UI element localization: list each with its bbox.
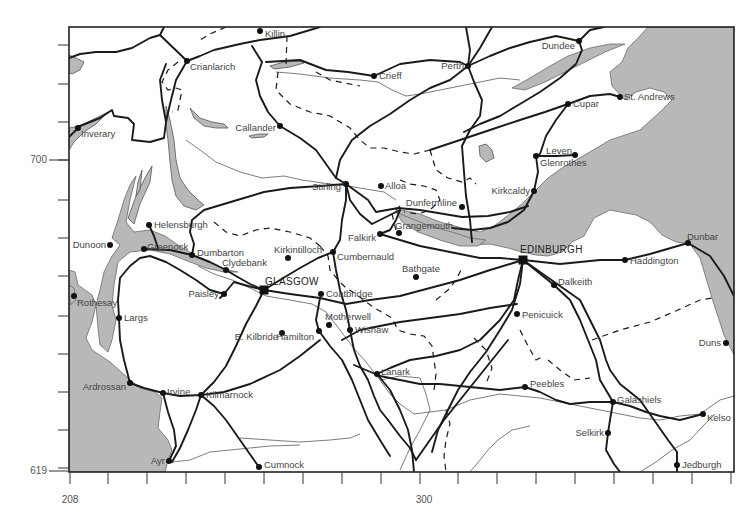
town-callander: Callander — [235, 122, 283, 133]
town-label: Crianlarich — [190, 61, 235, 72]
town-crianlarich: Crianlarich — [184, 58, 235, 72]
town-marker-icon — [459, 204, 465, 210]
town-haddington: Haddington — [622, 255, 679, 266]
town-falkirk: Falkirk — [348, 231, 383, 243]
town-marker-icon — [189, 252, 195, 258]
town-marker-icon — [326, 322, 332, 328]
town-marker-icon — [343, 181, 349, 187]
towns-layer: KillinCrianlarichCrieffPerthDundeeSt. An… — [71, 28, 731, 470]
town-label: Helensburgh — [154, 219, 208, 230]
town-stirling: Stirling — [312, 181, 349, 192]
town-marker-icon — [160, 390, 166, 396]
town-marker-icon — [622, 257, 628, 263]
town-label: Duns — [699, 337, 721, 348]
town-label: Alloa — [385, 180, 407, 191]
town-label: Killin — [265, 28, 285, 39]
town-cumbernauld: Cumbernauld — [330, 249, 394, 262]
town-label: Clydebank — [222, 257, 267, 268]
town-marker-icon — [374, 371, 380, 377]
town-label: Cupar — [573, 98, 599, 109]
town-cumnock: Cumnock — [256, 459, 304, 470]
town-label: Paisley — [188, 288, 219, 299]
town-dunoon: Dunoon — [73, 239, 113, 250]
town-inverary: Inverary — [75, 125, 116, 139]
clyde-estuary — [96, 176, 238, 352]
town-label: Stirling — [312, 181, 341, 192]
town-marker-icon — [277, 123, 283, 129]
town-st-andrews: St. Andrews — [617, 91, 675, 102]
city-label: EDINBURGH — [520, 244, 583, 255]
town-irvine: Irvine — [160, 386, 190, 397]
town-label: Crieff — [379, 70, 402, 81]
town-label: Ayr — [151, 455, 165, 466]
town-label: St. Andrews — [624, 91, 675, 102]
town-marker-icon — [347, 327, 353, 333]
town-marker-icon — [617, 94, 623, 100]
town-label: Bathgate — [402, 263, 440, 274]
town-crieff: Crieff — [371, 70, 402, 81]
town-marker-icon — [700, 411, 706, 417]
town-bathgate: Bathgate — [402, 263, 440, 280]
town-helensburgh: Helensburgh — [146, 219, 208, 230]
town-marker-icon — [256, 464, 262, 470]
x-axis-label: 208 — [62, 494, 79, 505]
town-jedburgh: Jedburgh — [674, 459, 722, 470]
town-label: Lanark — [381, 366, 410, 377]
town-label: Cumnock — [264, 459, 304, 470]
town-label: Motherwell — [325, 311, 371, 322]
town-marker-icon — [674, 462, 680, 468]
town-label: Selkirk — [575, 427, 604, 438]
town-penicuick: Penicuick — [514, 309, 563, 320]
town-dunfermline: Dunfermline — [406, 197, 465, 210]
town-clydebank: Clydebank — [222, 257, 267, 273]
town-perth: Perth — [441, 60, 471, 71]
town-marker-icon — [221, 291, 227, 297]
town-label: Galashiels — [617, 394, 662, 405]
town-coatbridge: Coatbridge — [318, 288, 372, 299]
town-killin: Killin — [257, 28, 285, 39]
town-marker-icon — [198, 392, 204, 398]
town-marker-icon — [514, 311, 520, 317]
town-label: Hamilton — [277, 331, 315, 342]
town-label: Penicuick — [522, 309, 563, 320]
town-marker-icon — [257, 28, 263, 34]
town-marker-icon — [116, 315, 122, 321]
town-marker-icon — [522, 384, 528, 390]
town-marker-icon — [565, 101, 571, 107]
left-axis-ticks — [58, 45, 69, 468]
scotland-central-belt-map: 700619208300 KillinCrianlarichCrieffPert… — [0, 0, 751, 526]
town-duns: Duns — [699, 337, 729, 348]
town-marker-icon — [605, 430, 611, 436]
y-axis-label: 619 — [30, 465, 47, 476]
town-label: E. Kilbride — [235, 331, 278, 342]
city-marker-icon — [519, 256, 528, 265]
town-label: Grangemouth — [395, 220, 453, 231]
town-marker-icon — [413, 274, 419, 280]
town-marker-icon — [531, 188, 537, 194]
town-marker-icon — [318, 291, 324, 297]
town-lanark: Lanark — [374, 366, 410, 377]
town-hamilton: Hamilton — [277, 328, 323, 342]
town-label: Perth — [441, 60, 464, 71]
city-glasgow: GLASGOW — [260, 276, 320, 295]
town-label: Rothesay — [77, 297, 117, 308]
town-label: Leven — [546, 145, 572, 156]
town-label: Inverary — [81, 128, 116, 139]
town-kelso: Kelso — [700, 411, 731, 423]
town-kirkintilloch: Kirkintilloch — [274, 244, 322, 261]
town-marker-icon — [378, 183, 384, 189]
north-sea-area — [398, 27, 734, 355]
town-marker-icon — [377, 231, 383, 237]
town-marker-icon — [316, 328, 322, 334]
town-label: Irvine — [167, 386, 190, 397]
town-marker-icon — [371, 73, 377, 79]
town-selkirk: Selkirk — [575, 427, 611, 438]
town-marker-icon — [576, 38, 582, 44]
town-alloa: Alloa — [378, 180, 407, 191]
town-greenock: Greenock — [141, 241, 188, 252]
town-label: Kirkintilloch — [274, 244, 322, 255]
town-marker-icon — [166, 458, 172, 464]
town-galashiels: Galashiels — [610, 394, 662, 405]
town-marker-icon — [610, 399, 616, 405]
town-label: Largs — [124, 312, 148, 323]
